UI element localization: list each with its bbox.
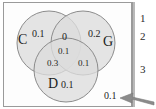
venn-diagram-figure: C G D 0.1 0.2 0.1 0 0.3 0.1 0.1 0.1 1 2 … — [0, 0, 156, 109]
margin-tick-2: 2 — [140, 31, 146, 42]
region-value-D-only: 0.1 — [61, 80, 74, 90]
set-label-C: C — [18, 33, 27, 47]
region-value-C-only: 0.1 — [32, 29, 45, 39]
set-label-D: D — [48, 77, 58, 91]
arrow-to-outside-value-icon — [118, 88, 156, 109]
region-value-outside: 0.1 — [104, 91, 117, 101]
margin-tick-3: 3 — [140, 64, 146, 75]
region-value-C-and-D: 0.3 — [47, 59, 58, 68]
region-value-C-and-G: 0 — [62, 32, 67, 42]
region-value-G-and-D: 0.1 — [78, 59, 89, 68]
set-label-G: G — [103, 35, 113, 49]
region-value-C-and-G-and-D: 0.1 — [58, 47, 69, 56]
region-value-G-only: 0.2 — [88, 29, 101, 39]
margin-tick-1: 1 — [140, 13, 146, 24]
